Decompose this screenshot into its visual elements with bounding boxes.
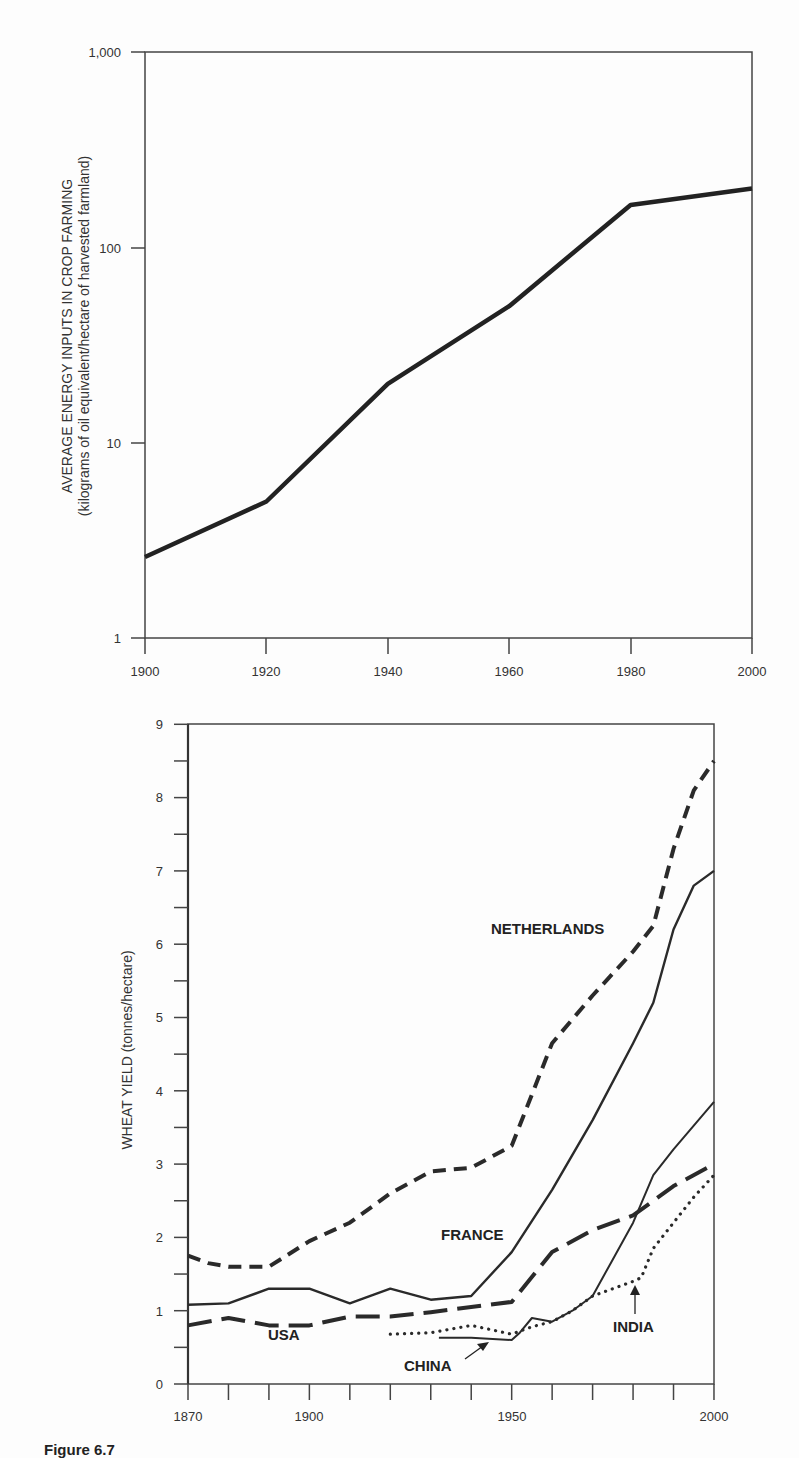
x-tick-label: 1980	[617, 664, 646, 679]
y-tick-label: 6	[156, 937, 163, 952]
x-axis	[145, 638, 752, 654]
x-tick-label: 1960	[495, 664, 524, 679]
x-tick-label: 1900	[295, 1409, 324, 1424]
france-label: FRANCE	[441, 1226, 504, 1243]
y-tick-label: 5	[156, 1010, 163, 1025]
y-tick-label: 4	[156, 1084, 163, 1099]
x-axis	[188, 1384, 714, 1400]
y-tick-label: 1	[114, 631, 121, 646]
wheat-yield-chart: 9 8 7 6 5 4 3 2 1 0 1870 1900 1950 2000 …	[119, 717, 728, 1424]
y-tick-label: 9	[156, 717, 163, 732]
india-label: INDIA	[613, 1318, 654, 1335]
energy-inputs-chart: 1,000 100 10 1 1900 1920 1940 1960 1980 …	[59, 45, 766, 679]
china-label: CHINA	[404, 1357, 452, 1374]
china-arrow	[465, 1342, 489, 1359]
y-axis	[174, 724, 188, 1384]
x-tick-label: 1900	[131, 664, 160, 679]
y-axis-subtitle: (kilograms of oil equivalent/hectare of …	[76, 156, 92, 516]
y-tick-label: 7	[156, 864, 163, 879]
x-tick-label: 1870	[174, 1409, 203, 1424]
y-tick-label: 2	[156, 1230, 163, 1245]
x-tick-label: 2000	[700, 1409, 729, 1424]
y-tick-label: 0	[156, 1377, 163, 1392]
y-tick-label: 8	[156, 790, 163, 805]
energy-inputs-line	[145, 189, 752, 557]
y-axis	[131, 52, 145, 638]
y-tick-label: 3	[156, 1157, 163, 1172]
plot-frame	[188, 724, 714, 1384]
y-axis-title: AVERAGE ENERGY INPUTS IN CROP FARMING	[59, 179, 75, 493]
x-tick-label: 1940	[374, 664, 403, 679]
x-tick-label: 1950	[498, 1409, 527, 1424]
y-tick-label: 1,000	[88, 45, 121, 60]
figure-caption: Figure 6.7	[44, 1441, 115, 1458]
netherlands-label: NETHERLANDS	[491, 920, 604, 937]
x-tick-label: 2000	[738, 664, 767, 679]
x-tick-label: 1920	[252, 664, 281, 679]
y-axis-title: WHEAT YIELD (tonnes/hectare)	[119, 950, 135, 1149]
india-arrow	[630, 1285, 640, 1314]
y-tick-label: 100	[99, 241, 121, 256]
y-tick-label: 10	[107, 436, 121, 451]
netherlands-line	[188, 761, 714, 1267]
y-tick-label: 1	[156, 1304, 163, 1319]
usa-label: USA	[268, 1326, 300, 1343]
